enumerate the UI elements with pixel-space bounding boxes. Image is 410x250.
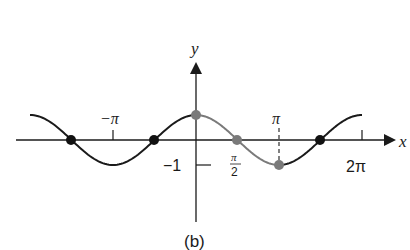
point-neg-pi-2 (149, 135, 159, 145)
point-pi-2-0 (232, 135, 242, 145)
neg-pi-label: −π (100, 110, 120, 127)
point-neg-3pi-2 (66, 135, 76, 145)
x-axis-arrow-icon (384, 134, 396, 146)
y-axis-arrow-icon (190, 62, 202, 74)
figure-caption: (b) (184, 232, 205, 250)
half-pi-denominator: 2 (231, 165, 238, 179)
cosine-graph: y x −π π 2π −1 π 2 (b) (0, 0, 410, 250)
point-0-1 (191, 110, 201, 120)
two-pi-label: 2π (346, 158, 366, 175)
point-3pi-2 (315, 135, 325, 145)
neg-one-label: −1 (163, 157, 181, 174)
y-axis-label: y (189, 39, 199, 58)
point-pi-neg-1 (274, 160, 284, 170)
half-pi-numerator: π (231, 151, 237, 163)
pi-label: π (272, 110, 281, 127)
x-axis-label: x (398, 132, 407, 151)
